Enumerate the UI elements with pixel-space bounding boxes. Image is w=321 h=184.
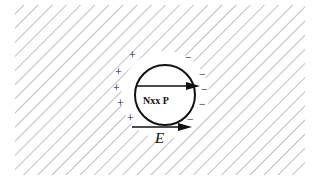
positive-charge: + — [115, 65, 122, 80]
negative-charge: − — [187, 112, 194, 127]
dielectric-medium-hatching — [15, 5, 305, 175]
negative-charge: − — [199, 97, 206, 112]
particle-label: Nxx P — [143, 95, 169, 106]
positive-charge: + — [113, 81, 120, 96]
positive-charge: + — [129, 48, 136, 63]
negative-charge: − — [185, 50, 192, 65]
positive-charge: + — [117, 96, 124, 111]
negative-charge: − — [201, 82, 208, 97]
field-label: E — [155, 130, 164, 147]
polarization-diagram — [0, 0, 321, 184]
positive-charge: + — [127, 111, 134, 126]
negative-charge: − — [199, 67, 206, 82]
